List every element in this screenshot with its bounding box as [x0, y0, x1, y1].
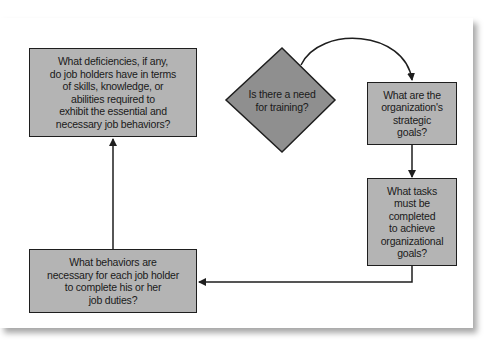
- strategic-goals-box: What are the organization's strategic go…: [367, 82, 457, 145]
- deficiencies-box: What deficiencies, if any, do job holder…: [29, 48, 197, 137]
- tasks-label: What tasks must be completed to achieve …: [381, 185, 444, 260]
- behaviors-box: What behaviors are necessary for each jo…: [29, 249, 197, 313]
- deficiencies-label: What deficiencies, if any, do job holder…: [50, 55, 176, 130]
- edge-start-to-strategic-goals: [301, 38, 412, 80]
- tasks-box: What tasks must be completed to achieve …: [367, 178, 457, 266]
- strategic-goals-label: What are the organization's strategic go…: [381, 89, 443, 139]
- edge-tasks-to-behaviors: [199, 266, 412, 282]
- training-need-label: Is there a need for training?: [240, 88, 324, 113]
- behaviors-label: What behaviors are necessary for each jo…: [47, 256, 179, 306]
